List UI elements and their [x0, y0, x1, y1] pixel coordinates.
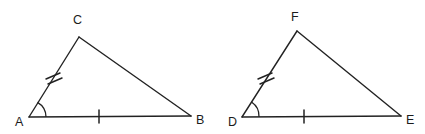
angle-arc-d — [252, 102, 260, 117]
angle-arc-a — [38, 102, 47, 117]
vertex-label-a: A — [15, 115, 24, 129]
segment-de — [242, 116, 401, 117]
segment-fe — [297, 31, 401, 116]
tick-double-ac — [46, 73, 62, 84]
vertex-label-d: D — [228, 115, 237, 129]
segment-ac — [29, 37, 79, 117]
triangle-abc: A B C — [15, 13, 204, 129]
vertex-label-f: F — [291, 10, 299, 24]
vertex-label-b: B — [196, 113, 204, 127]
vertex-label-c: C — [73, 13, 82, 27]
vertex-label-e: E — [406, 113, 414, 127]
segment-cb — [79, 37, 191, 116]
geometry-figure: A B C D E F — [0, 0, 425, 134]
triangle-def: D E F — [228, 10, 414, 129]
segment-ab — [29, 116, 191, 117]
figure-canvas: A B C D E F — [0, 0, 425, 134]
